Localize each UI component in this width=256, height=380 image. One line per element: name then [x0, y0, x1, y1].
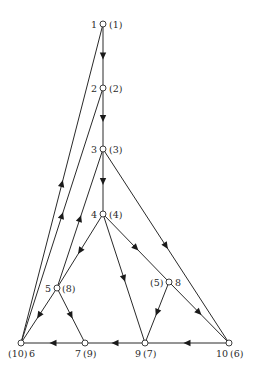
directed-graph: 1 (1) 2 (2) 3 (3) 4 (4) 5 (8) (5) 8 (10)…	[0, 0, 256, 380]
node-10-circle	[226, 340, 232, 346]
edges	[21, 24, 229, 346]
arrowhead-icon	[161, 241, 167, 249]
node-4-label: 4	[91, 209, 97, 220]
node-8-alt-label: (5)	[150, 277, 163, 288]
arrowhead-icon	[120, 274, 126, 282]
node-5-label: 5	[45, 283, 51, 294]
arrowhead-icon	[184, 340, 191, 346]
arrowhead-icon	[58, 212, 64, 220]
node-1-circle	[100, 21, 106, 27]
node-1-alt-label: (1)	[109, 19, 122, 30]
node-4-alt-label: (4)	[109, 209, 122, 220]
node-10-alt-label: (6)	[230, 348, 243, 359]
arrowhead-icon	[78, 246, 84, 254]
arrowhead-icon	[100, 53, 106, 60]
node-3-circle	[100, 146, 106, 152]
node-9-alt-label: (7)	[143, 348, 156, 359]
node-1-label: 1	[91, 19, 97, 30]
node-5-circle	[54, 285, 60, 291]
arrowhead-icon	[37, 311, 44, 319]
arrowhead-icon	[112, 340, 119, 346]
node-6-alt-label: (10)	[8, 348, 28, 359]
node-8-circle	[166, 279, 172, 285]
node-7-label: 7	[75, 348, 81, 359]
arrowhead-icon	[50, 340, 57, 346]
arrowhead-icon	[76, 215, 82, 223]
node-6-label: 6	[29, 348, 35, 359]
node-3-alt-label: (3)	[109, 144, 122, 155]
node-5-alt-label: (8)	[62, 283, 75, 294]
node-7-alt-label: (9)	[83, 348, 96, 359]
node-2-alt-label: (2)	[109, 83, 122, 94]
node-10-label: 10	[216, 348, 228, 359]
node-6-circle	[18, 340, 24, 346]
node-2-circle	[100, 85, 106, 91]
arrowhead-icon	[58, 180, 64, 188]
node-7-circle	[82, 340, 88, 346]
arrowhead-icon	[100, 115, 106, 122]
node-8-label: 8	[175, 277, 181, 288]
node-9-circle	[142, 340, 148, 346]
node-9-label: 9	[135, 348, 141, 359]
node-2-label: 2	[91, 83, 97, 94]
node-3-label: 3	[91, 144, 97, 155]
node-4-circle	[100, 211, 106, 217]
arrowhead-icon	[100, 178, 106, 185]
